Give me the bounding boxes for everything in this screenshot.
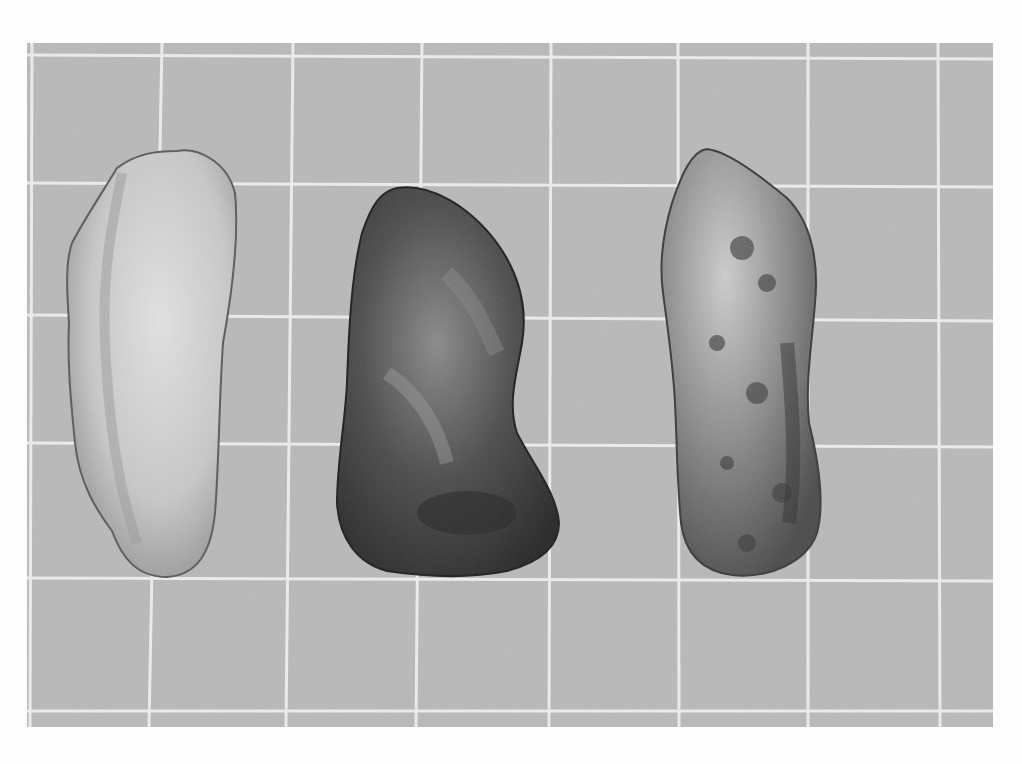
photo-canvas <box>27 43 993 727</box>
artifact-photo <box>27 43 993 727</box>
